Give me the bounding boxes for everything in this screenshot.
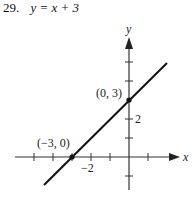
y-axis-arrow-icon: [125, 37, 133, 49]
y-axis-label: y: [125, 22, 132, 36]
x-axis-arrow-icon: [169, 153, 180, 161]
x-axis-label: x: [182, 150, 189, 164]
function-line: [44, 63, 167, 185]
point-label-0-3: (0, 3): [96, 86, 122, 100]
point-0-3: [126, 97, 131, 102]
y-tick-label: 2: [135, 112, 141, 126]
x-axis: [15, 153, 180, 161]
point-neg3-0: [69, 154, 74, 159]
y-axis: [125, 37, 133, 190]
point-label-neg3-0: (−3, 0): [37, 136, 70, 150]
x-tick-label: −2: [81, 161, 94, 175]
graph: y x (0, 3) (−3, 0) −2 2: [0, 0, 193, 200]
